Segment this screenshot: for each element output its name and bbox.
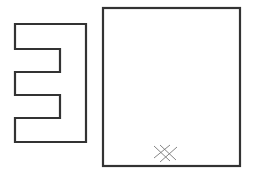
hatch-line bbox=[160, 145, 176, 160]
cross-hatch-mark bbox=[154, 145, 177, 162]
e-shape-outline bbox=[15, 24, 86, 142]
rectangle-outline bbox=[103, 8, 240, 166]
hatch-line bbox=[154, 146, 170, 161]
diagram-canvas bbox=[0, 0, 255, 181]
